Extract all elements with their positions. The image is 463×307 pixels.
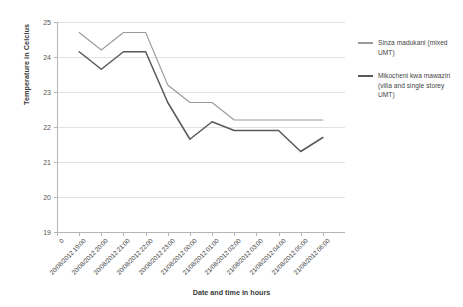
series-line bbox=[79, 52, 323, 152]
x-tick-mark bbox=[146, 232, 147, 236]
legend-item[interactable]: Mikocheni kwa mawaziri (villa and single… bbox=[358, 71, 462, 100]
y-axis-title: Temperature in Celcius bbox=[22, 0, 31, 145]
line-chart: Temperature in Celcius 25242322212019 02… bbox=[0, 0, 463, 307]
x-axis-line bbox=[57, 232, 345, 233]
x-tick-mark bbox=[323, 232, 324, 236]
x-tick-mark bbox=[234, 232, 235, 236]
y-tick-label: 24 bbox=[43, 54, 51, 61]
series-layer bbox=[57, 22, 345, 232]
x-tick-mark bbox=[256, 232, 257, 236]
x-tick-mark bbox=[212, 232, 213, 236]
y-tick-label: 25 bbox=[43, 19, 51, 26]
legend-label: Sinza madukani (mixed UMT) bbox=[378, 38, 462, 57]
y-tick-label: 22 bbox=[43, 124, 51, 131]
x-tick-mark bbox=[279, 232, 280, 236]
x-tick-mark bbox=[123, 232, 124, 236]
x-tick-mark bbox=[101, 232, 102, 236]
x-axis-title: Date and time in hours bbox=[0, 288, 463, 297]
y-tick-label: 21 bbox=[43, 159, 51, 166]
plot-area: 25242322212019 020/08/2012 19:0020/08/20… bbox=[57, 22, 345, 232]
x-tick-mark bbox=[57, 232, 58, 236]
chart-legend: Sinza madukani (mixed UMT)Mikocheni kwa … bbox=[358, 38, 462, 114]
y-tick-label: 23 bbox=[43, 89, 51, 96]
legend-swatch-icon bbox=[358, 42, 373, 44]
legend-swatch-icon bbox=[358, 75, 373, 77]
x-tick-mark bbox=[79, 232, 80, 236]
x-tick-mark bbox=[301, 232, 302, 236]
series-line bbox=[79, 33, 323, 121]
x-tick-label: 0 bbox=[58, 237, 65, 244]
legend-item[interactable]: Sinza madukani (mixed UMT) bbox=[358, 38, 462, 57]
y-tick-label: 19 bbox=[43, 229, 51, 236]
legend-label: Mikocheni kwa mawaziri (villa and single… bbox=[378, 71, 462, 100]
x-tick-label: 20/08/2012 19:00 bbox=[48, 237, 87, 276]
x-tick-mark bbox=[168, 232, 169, 236]
y-tick-label: 20 bbox=[43, 194, 51, 201]
x-tick-mark bbox=[190, 232, 191, 236]
